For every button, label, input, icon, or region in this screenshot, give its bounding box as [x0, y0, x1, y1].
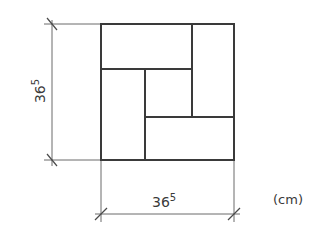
vertical-dimension-value: 36 [32, 85, 48, 103]
horizontal-dimension-superscript: 5 [170, 192, 176, 203]
outer-square [101, 24, 234, 160]
horizontal-dimension-value: 36 [152, 194, 170, 210]
dimension-ticks [47, 18, 240, 220]
extension-lines [44, 24, 234, 222]
vertical-dimension-superscript: 5 [30, 79, 41, 85]
vertical-dimension-label: 365 [33, 71, 47, 111]
horizontal-dimension-label: 365 [152, 195, 176, 209]
brick-layout [101, 24, 234, 160]
unit-label: (cm) [273, 193, 303, 206]
